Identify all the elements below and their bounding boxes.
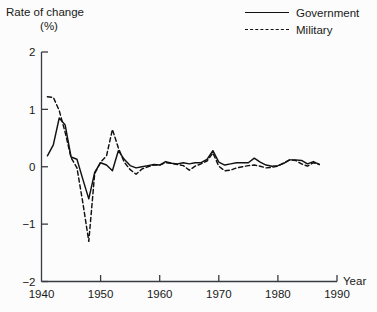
chart-figure: Rate of change (%) Government Military −… [0, 0, 377, 312]
series-line-military [47, 97, 319, 242]
y-axis-tick-labels: −2−1012 [22, 46, 35, 288]
chart-canvas: −2−1012 194019501960197019801990 Year [0, 0, 377, 312]
y-axis-ticks [42, 109, 49, 281]
x-tick-label: 1940 [29, 288, 55, 300]
x-axis-title: Year [343, 275, 366, 287]
y-tick-label: −2 [22, 276, 35, 288]
axis-lines [42, 52, 338, 282]
x-tick-label: 1950 [88, 288, 114, 300]
x-tick-label: 1980 [265, 288, 291, 300]
x-axis-ticks [101, 275, 278, 282]
x-tick-label: 1960 [147, 288, 173, 300]
x-tick-label: 1990 [324, 288, 350, 300]
y-tick-label: −1 [22, 218, 35, 230]
series-line-government [47, 118, 319, 199]
x-tick-label: 1970 [206, 288, 232, 300]
y-tick-label: 0 [29, 161, 35, 173]
x-axis-tick-labels: 194019501960197019801990 [29, 288, 350, 300]
y-tick-label: 2 [29, 46, 35, 58]
y-tick-label: 1 [29, 104, 35, 116]
